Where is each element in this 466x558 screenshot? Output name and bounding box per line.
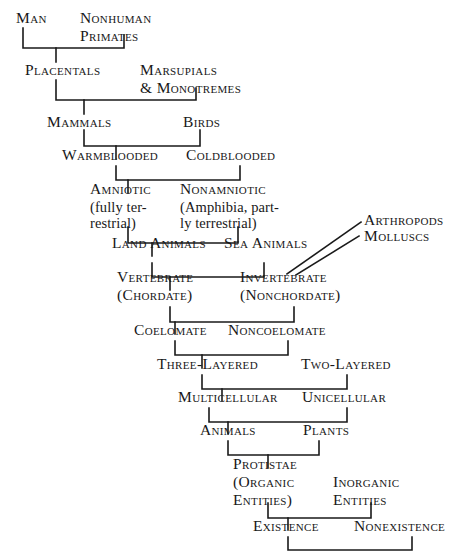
bracket-warm-cold bbox=[116, 166, 240, 180]
node-coldblooded: Coldblooded bbox=[186, 146, 275, 164]
node-protistae-line2: (Organic bbox=[233, 473, 297, 491]
node-protistae: Protistae(OrganicEntities) bbox=[233, 455, 297, 509]
node-plants: Plants bbox=[303, 421, 349, 439]
bracket-existence-nonexistence bbox=[288, 537, 412, 550]
node-marsupials-line2: & Monotremes bbox=[140, 79, 241, 97]
bracket-coelomate-noncoelomate bbox=[175, 341, 288, 355]
node-inorganic-line1: Inorganic bbox=[333, 473, 399, 490]
node-nonamniotic-line3: ly terrestrial) bbox=[180, 215, 279, 232]
node-protistae-line3: Entities) bbox=[233, 491, 297, 509]
node-man: Man bbox=[16, 9, 47, 27]
node-molluscs: Molluscs bbox=[364, 227, 429, 245]
bracket-mammals-birds bbox=[84, 130, 200, 146]
node-nonexistence: Nonexistence bbox=[354, 517, 445, 535]
node-marsupials-line1: Marsupials bbox=[140, 61, 217, 78]
node-coelomate: Coelomate bbox=[134, 321, 207, 339]
node-nonhuman-primates-line2: Primates bbox=[80, 27, 151, 45]
node-birds: Birds bbox=[183, 113, 220, 131]
node-nonhuman-primates: NonhumanPrimates bbox=[80, 9, 151, 45]
node-amniotic-line2: (fully ter- bbox=[90, 199, 151, 216]
node-marsupials-monotremes: Marsupials& Monotremes bbox=[140, 61, 241, 97]
node-vertebrate-line1: Vertebrate bbox=[117, 268, 193, 285]
node-noncoelomate: Noncoelomate bbox=[228, 321, 326, 339]
node-sea-animals: Sea Animals bbox=[224, 234, 308, 252]
node-protistae-line1: Protistae bbox=[233, 455, 297, 472]
node-invertebrate: Invertebrate(Nonchordate) bbox=[240, 268, 341, 304]
node-existence: Existence bbox=[253, 517, 319, 535]
node-land-animals: Land Animals bbox=[112, 234, 206, 252]
bracket-animals-plants bbox=[228, 441, 319, 455]
bracket-three-two-layered bbox=[202, 375, 347, 389]
node-two-layered: Two-Layered bbox=[301, 355, 391, 373]
bracket-multi-uni-cellular bbox=[209, 408, 347, 422]
node-nonhuman-primates-line1: Nonhuman bbox=[80, 9, 151, 26]
node-placentals: Placentals bbox=[25, 61, 100, 79]
node-inorganic-entities: InorganicEntities bbox=[333, 473, 399, 509]
node-amniotic: Amniotic(fully ter-restrial) bbox=[90, 180, 151, 232]
node-animals: Animals bbox=[200, 421, 256, 439]
node-inorganic-line2: Entities bbox=[333, 491, 399, 509]
node-invertebrate-line2: (Nonchordate) bbox=[240, 286, 341, 304]
hierarchy-diagram: Man NonhumanPrimates Placentals Marsupia… bbox=[0, 0, 466, 558]
bracket-vertebrate-invertebrate bbox=[170, 307, 294, 322]
node-three-layered: Three-Layered bbox=[157, 355, 258, 373]
node-vertebrate-line2: (Chordate) bbox=[117, 286, 193, 304]
node-amniotic-line3: restrial) bbox=[90, 215, 151, 232]
node-vertebrate: Vertebrate(Chordate) bbox=[117, 268, 193, 304]
node-nonamniotic-line2: (Amphibia, part- bbox=[180, 199, 279, 216]
node-unicellular: Unicellular bbox=[302, 388, 386, 406]
node-nonamniotic: Nonamniotic(Amphibia, part-ly terrestria… bbox=[180, 180, 279, 232]
node-nonamniotic-line1: Nonamniotic bbox=[180, 180, 266, 197]
node-mammals: Mammals bbox=[47, 113, 112, 131]
node-multicellular: Multicellular bbox=[178, 388, 278, 406]
node-invertebrate-line1: Invertebrate bbox=[240, 268, 327, 285]
node-amniotic-line1: Amniotic bbox=[90, 180, 151, 197]
node-warmblooded: Warmblooded bbox=[62, 146, 158, 164]
